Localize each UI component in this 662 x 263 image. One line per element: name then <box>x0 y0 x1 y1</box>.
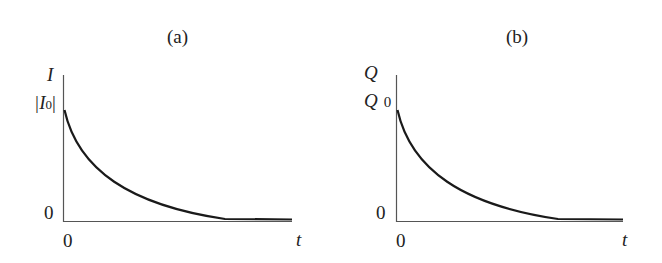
panel-b-decay-curve <box>398 110 624 220</box>
panel-a-x-label: t <box>296 230 301 249</box>
panel-b-x-label: t <box>622 230 627 249</box>
panel-a-x-zero: 0 <box>63 231 73 250</box>
abs-bar: | <box>52 92 56 113</box>
panel-a-title: (a) <box>167 27 188 46</box>
panel-b-x-zero: 0 <box>396 231 406 250</box>
plots-canvas <box>0 0 662 263</box>
q0-symbol: Q <box>364 90 378 111</box>
q0-subscript: 0 <box>384 94 392 110</box>
panel-a-y-top-tick: |I0| <box>34 93 56 112</box>
panel-b-y-top-tick: Q0 <box>364 91 391 110</box>
i0-symbol: |I <box>34 92 46 113</box>
panel-b-y-zero: 0 <box>376 203 386 222</box>
panel-a-y-zero: 0 <box>44 203 54 222</box>
panel-a-y-label: I <box>47 65 53 84</box>
panel-b-title: (b) <box>506 27 528 46</box>
panel-a-decay-curve <box>65 110 293 220</box>
panel-b-y-label: Q <box>364 63 378 82</box>
